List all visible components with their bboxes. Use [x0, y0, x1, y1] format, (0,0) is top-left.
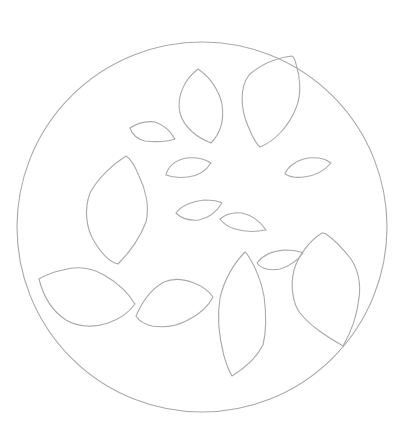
leaf-circle-drawing [0, 0, 403, 443]
leaf-small-center-3 [220, 213, 266, 232]
leaf-lower-center-left [136, 279, 213, 326]
leaf-small-upper-left [130, 122, 175, 142]
leaf-lower-left [39, 268, 135, 326]
leaf-small-center-1 [166, 158, 211, 178]
leaf-center-tall [219, 252, 266, 376]
leaf-small-right [285, 158, 331, 178]
leaf-top-right-large [242, 56, 300, 147]
outer-circle [17, 42, 387, 412]
leaf-right-large [292, 233, 359, 346]
leaf-left-tall [87, 156, 148, 264]
leaf-top-center [179, 69, 223, 143]
leaf-small-center-2 [176, 200, 222, 220]
leaf-small-lower-right [257, 250, 303, 270]
leaves-group [39, 56, 360, 376]
